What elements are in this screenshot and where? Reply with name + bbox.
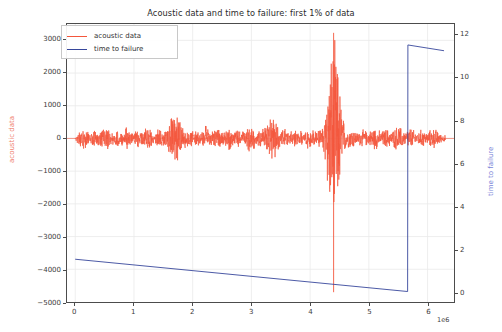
legend-item-time-to-failure: time to failure xyxy=(67,43,172,55)
y-left-tickmark xyxy=(63,72,66,73)
y-axis-left-label: acoustic data xyxy=(8,116,16,163)
legend-swatch-time-to-failure xyxy=(67,49,87,50)
y-left-tickmark xyxy=(63,204,66,205)
y-right-tick-label: 4 xyxy=(460,203,464,211)
plot-area xyxy=(66,23,455,303)
data-series-layer xyxy=(67,24,454,302)
legend-label-acoustic-data: acoustic data xyxy=(94,32,141,40)
x-tick-label: 4 xyxy=(308,308,312,316)
y-left-tick-label: 0 xyxy=(30,134,61,142)
y-left-tickmark xyxy=(63,138,66,139)
legend-swatch-acoustic-data xyxy=(67,36,87,37)
y-left-tickmark xyxy=(63,39,66,40)
chart-title: Acoustic data and time to failure: first… xyxy=(0,8,502,18)
x-tickmark xyxy=(74,303,75,306)
legend-item-acoustic-data: acoustic data xyxy=(67,30,172,42)
y-right-tick-label: 10 xyxy=(460,73,469,81)
y-right-tick-label: 0 xyxy=(460,289,464,297)
x-tickmark xyxy=(251,303,252,306)
chart-legend: acoustic data time to failure xyxy=(61,25,178,59)
x-tickmark xyxy=(192,303,193,306)
y-left-tickmark xyxy=(63,303,66,304)
x-tick-label: 2 xyxy=(190,308,194,316)
y-left-tick-label: 1000 xyxy=(30,101,61,109)
x-tick-label: 6 xyxy=(426,308,430,316)
x-tickmark xyxy=(369,303,370,306)
y-left-tick-label: −2000 xyxy=(30,200,61,208)
legend-label-time-to-failure: time to failure xyxy=(94,45,143,53)
y-left-tickmark xyxy=(63,105,66,106)
y-right-tickmark xyxy=(455,164,458,165)
y-left-tickmark xyxy=(63,270,66,271)
y-left-tick-label: 2000 xyxy=(30,68,61,76)
y-right-tick-label: 8 xyxy=(460,117,464,125)
matplotlib-figure: Acoustic data and time to failure: first… xyxy=(0,0,502,332)
y-axis-right-label: time to failure xyxy=(487,147,495,196)
x-tick-label: 5 xyxy=(367,308,371,316)
y-left-tickmark xyxy=(63,171,66,172)
y-right-tickmark xyxy=(455,250,458,251)
x-tick-label: 0 xyxy=(72,308,76,316)
y-left-tick-label: −4000 xyxy=(30,266,61,274)
y-right-tick-label: 2 xyxy=(460,246,464,254)
x-tickmark xyxy=(428,303,429,306)
y-right-tickmark xyxy=(455,293,458,294)
y-left-tick-label: −5000 xyxy=(30,299,61,307)
y-left-tick-label: −3000 xyxy=(30,233,61,241)
y-right-tickmark xyxy=(455,121,458,122)
x-tickmark xyxy=(310,303,311,306)
y-right-tickmark xyxy=(455,207,458,208)
y-left-tick-label: −1000 xyxy=(30,167,61,175)
x-axis-exponent-label: 1e6 xyxy=(437,316,449,324)
x-tick-label: 1 xyxy=(131,308,135,316)
y-right-tick-label: 12 xyxy=(460,30,469,38)
x-tickmark xyxy=(133,303,134,306)
y-right-tickmark xyxy=(455,34,458,35)
y-right-tick-label: 6 xyxy=(460,160,464,168)
y-right-tickmark xyxy=(455,77,458,78)
y-left-tick-label: 3000 xyxy=(30,35,61,43)
x-tick-label: 3 xyxy=(249,308,253,316)
y-left-tickmark xyxy=(63,237,66,238)
